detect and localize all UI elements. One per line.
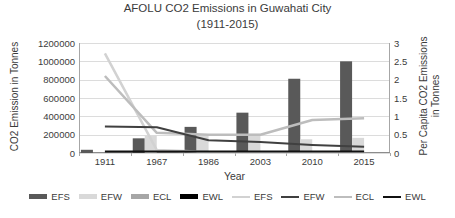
- legend-label: EFS: [254, 191, 272, 202]
- x-axis-tick-label-2015: 2015: [344, 156, 384, 167]
- legend-line-swatch: [383, 196, 401, 198]
- bar-efs-1911: [81, 150, 93, 153]
- legend-label: ECL: [153, 191, 171, 202]
- legend-line-swatch: [281, 196, 299, 198]
- left-axis-title: CO2 Emission in Tonnes: [9, 37, 20, 157]
- x-axis-tick-label-2010: 2010: [292, 156, 332, 167]
- legend-label: EWL: [405, 191, 426, 202]
- right-axis-tick-label: 2: [394, 74, 424, 85]
- plot-area: [79, 43, 390, 159]
- legend-item-line-efs: EFS: [232, 191, 272, 202]
- legend-item-bar-ecl: ECL: [131, 191, 171, 202]
- legend-bar-swatch: [29, 194, 47, 199]
- right-axis-tick-label: 0: [394, 148, 424, 159]
- x-axis-tick-label-1967: 1967: [137, 156, 177, 167]
- legend-line-swatch: [232, 196, 250, 198]
- x-axis-tick-label-2003: 2003: [240, 156, 280, 167]
- bar-efs-2015: [340, 61, 352, 153]
- legend-label: EWL: [202, 191, 223, 202]
- x-axis-ticks: 191119671986200320102015: [79, 156, 390, 168]
- legend-label: ECL: [356, 191, 374, 202]
- x-axis-tick-label-1911: 1911: [85, 156, 125, 167]
- legend-item-bar-ewl: EWL: [180, 191, 223, 202]
- bar-efs-2010: [288, 79, 300, 153]
- left-axis-tick-label: 800000: [20, 74, 75, 85]
- left-axis-tick-label: 1200000: [20, 38, 75, 49]
- legend-label: EFS: [51, 191, 69, 202]
- x-axis-tick-label-1986: 1986: [189, 156, 229, 167]
- legend-bar-swatch: [180, 194, 198, 199]
- right-axis-ticks: 32.521.510.50: [394, 0, 424, 218]
- legend-label: EFW: [101, 191, 122, 202]
- left-axis-tick-label: 200000: [20, 129, 75, 140]
- legend: EFSEFWECLEWLEFSEFWECLEWL: [0, 191, 455, 202]
- afolu-emissions-chart: AFOLU CO2 Emissions in Guwahati City (19…: [0, 0, 455, 218]
- right-axis-tick-label: 3: [394, 38, 424, 49]
- legend-item-bar-efw: EFW: [79, 191, 122, 202]
- left-axis-tick-label: 400000: [20, 111, 75, 122]
- right-axis-tick-label: 1: [394, 111, 424, 122]
- line-efs: [105, 53, 364, 152]
- legend-item-line-ewl: EWL: [383, 191, 426, 202]
- bar-efs-2003: [236, 113, 248, 153]
- legend-bar-swatch: [131, 194, 149, 199]
- legend-item-line-efw: EFW: [281, 191, 324, 202]
- left-axis-tick-label: 600000: [20, 93, 75, 104]
- bar-efw-2003: [248, 134, 260, 153]
- left-axis-tick-label: 1000000: [20, 56, 75, 67]
- right-axis-tick-label: 2.5: [394, 56, 424, 67]
- right-axis-tick-label: 0.5: [394, 129, 424, 140]
- right-axis-title-line2: in Tonnes: [430, 22, 442, 170]
- legend-label: EFW: [303, 191, 324, 202]
- right-axis-tick-label: 1.5: [394, 93, 424, 104]
- legend-item-bar-efs: EFS: [29, 191, 69, 202]
- legend-bar-swatch: [79, 194, 97, 199]
- left-axis-ticks: 120000010000008000006000004000002000000: [20, 0, 75, 218]
- legend-item-line-ecl: ECL: [334, 191, 374, 202]
- x-axis-title: Year: [79, 170, 390, 182]
- bar-efs-1986: [185, 127, 197, 153]
- left-axis-tick-label: 0: [20, 148, 75, 159]
- legend-line-swatch: [334, 196, 352, 198]
